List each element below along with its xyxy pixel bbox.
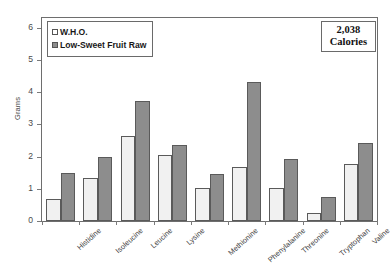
bar-fruit[interactable] [61,173,76,221]
x-axis-tick-mark [228,221,229,225]
bar-fruit[interactable] [321,197,336,221]
calories-annotation: 2,038 Calories [321,21,376,52]
bar-group [195,18,224,221]
legend-item[interactable]: Low-Sweet Fruit Raw [52,39,146,51]
y-axis-tick-label: 1 [28,183,33,194]
x-axis-label: Isoleucine [114,226,145,255]
bar-fruit[interactable] [210,174,225,221]
bar-who[interactable] [232,167,247,221]
x-axis-label: Methionine [226,226,259,257]
bar-who[interactable] [307,213,322,221]
y-axis-tick-label: 0 [28,215,33,226]
bar-who[interactable] [46,199,61,221]
x-axis-tick-mark [154,221,155,225]
y-axis-tick: 4 [0,92,41,93]
x-axis-tick-mark [303,221,304,225]
bar-who[interactable] [121,136,136,221]
x-axis-label: Lysine [185,226,207,247]
x-axis-tick-mark [265,221,266,225]
bar-who[interactable] [344,164,359,221]
bar-group [232,18,261,221]
calories-value: 2,038 [330,24,367,36]
bar-who[interactable] [269,188,284,221]
bar-group [158,18,187,221]
bar-fruit[interactable] [358,143,373,221]
bar-fruit[interactable] [98,157,113,221]
x-axis-tick-mark [340,221,341,225]
y-axis-tick-label: 4 [28,86,33,97]
bar-fruit[interactable] [247,82,262,221]
bar-who[interactable] [158,155,173,221]
y-axis-tick-label: 6 [28,22,33,33]
y-axis-tick-label: 5 [28,54,33,65]
x-axis-label: Histidine [75,226,102,252]
x-axis-tick-mark [116,221,117,225]
x-axis-tick-mark [377,221,378,225]
bar-fruit[interactable] [172,145,187,221]
y-axis-tick-label: 2 [28,151,33,162]
bar-fruit[interactable] [284,159,299,221]
y-axis-title: Grams [13,79,22,139]
y-axis-tick: 2 [0,157,41,158]
legend-item-label: W.H.O. [60,27,88,37]
x-axis-label: Tryptophan [338,226,372,258]
calories-unit: Calories [330,36,367,48]
x-axis-label: Valine [371,226,392,246]
y-axis-tick: 3 [0,124,41,125]
y-axis-tick: 5 [0,60,41,61]
x-axis-label: Phenylalanine [266,226,307,264]
y-axis-tick-label: 3 [28,118,33,129]
legend-item[interactable]: W.H.O. [52,26,146,38]
bar-who[interactable] [195,188,210,221]
bar-group [269,18,298,221]
x-axis-tick-mark [42,221,43,225]
x-axis-label: Leucine [149,226,175,250]
bar-fruit[interactable] [135,101,150,221]
bar-who[interactable] [83,178,98,222]
y-axis-tick: 1 [0,189,41,190]
x-axis-tick-mark [79,221,80,225]
legend-swatch-icon [52,42,58,48]
x-axis-tick-mark [191,221,192,225]
chart-legend: W.H.O.Low-Sweet Fruit Raw [47,21,153,57]
legend-item-label: Low-Sweet Fruit Raw [60,40,146,50]
y-axis-tick: 6 [0,28,41,29]
legend-swatch-icon [52,29,58,35]
y-axis-tick: 0 [0,221,41,222]
